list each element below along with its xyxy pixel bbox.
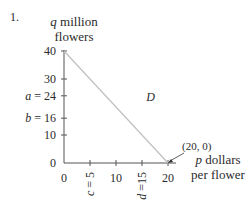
y-axis-title: q million <box>50 14 98 29</box>
x-tick-label: 10 <box>110 171 122 185</box>
x-tick-label: 0 <box>61 171 67 185</box>
demand-label: D <box>145 90 155 104</box>
y-tick-label: 0 <box>50 156 56 170</box>
x-ticks: 0c = 510d =1520 <box>61 160 174 200</box>
x-tick-label: 20 <box>162 171 174 185</box>
y-tick-label: 10 <box>44 128 56 142</box>
x-tick-label: c = 5 <box>83 172 97 196</box>
y-tick-label: 30 <box>44 72 56 86</box>
y-tick-label: 40 <box>44 44 56 58</box>
y-ticks: 4030a = 24b = 16100 <box>25 44 67 170</box>
x-axis-title: p dollars <box>194 152 240 167</box>
y-tick-label: b = 16 <box>25 111 56 125</box>
problem-number: 1. <box>10 10 19 24</box>
x-axis-title-line2: per flower <box>191 167 245 182</box>
y-axis-title-line2: flowers <box>55 29 94 44</box>
demand-line <box>64 51 168 163</box>
demand-chart: 1. q million flowers 4030a = 24b = 16100… <box>0 0 247 211</box>
annotation-arrow <box>170 153 184 161</box>
x-tick-label: d =15 <box>135 172 149 200</box>
y-tick-label: a = 24 <box>25 89 56 103</box>
